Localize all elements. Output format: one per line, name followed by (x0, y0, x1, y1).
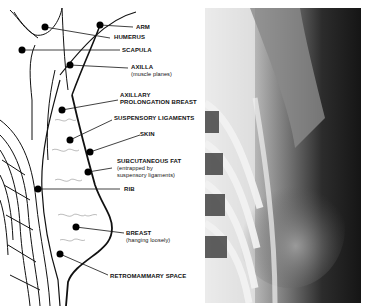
label-axillary-line2: PROLONGATION BREAST (120, 99, 197, 106)
label-skin: SKIN (140, 131, 155, 138)
label-axilla-sub: (muscle planes) (131, 71, 172, 78)
label-rib: RIB (124, 186, 135, 193)
label-subcutaneous-sub1: (entrapped by (117, 165, 181, 172)
label-subcutaneous-fat: SUBCUTANEOUS FAT (entrapped by suspensor… (117, 158, 181, 179)
label-breast: BREAST (hanging loosely) (126, 230, 170, 244)
label-retromammary-space: RETROMAMMARY SPACE (110, 273, 186, 280)
label-axilla-title: AXILLA (131, 64, 153, 70)
label-breast-title: BREAST (126, 230, 151, 236)
label-breast-sub: (hanging loosely) (126, 237, 170, 244)
label-axillary-line1: AXILLARY (120, 92, 197, 99)
label-scapula: SCAPULA (122, 47, 152, 54)
label-arm: ARM (136, 24, 150, 31)
label-axillary-prolongation: AXILLARY PROLONGATION BREAST (120, 92, 197, 106)
label-humerus: HUMERUS (114, 34, 145, 41)
label-suspensory-ligaments: SUSPENSORY LIGAMENTS (114, 115, 194, 122)
anatomy-schematic (0, 0, 205, 306)
label-axilla: AXILLA (muscle planes) (131, 64, 172, 78)
label-subcutaneous-sub2: suspensory ligaments) (117, 172, 181, 179)
breast-radiograph (205, 8, 361, 303)
label-subcutaneous-title: SUBCUTANEOUS FAT (117, 158, 181, 164)
